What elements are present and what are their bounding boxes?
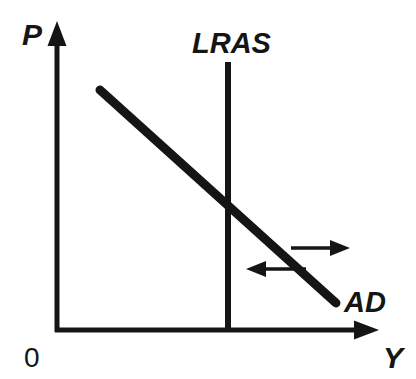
origin-label: 0 [24, 342, 40, 373]
ad-label: AD [343, 286, 386, 318]
horizontal-axis-arrowhead [354, 321, 379, 340]
diagram-canvas: P Y 0 LRAS AD [0, 0, 416, 379]
shift-right-arrow[interactable] [291, 240, 350, 256]
ad-curve[interactable] [100, 90, 336, 303]
vertical-axis-arrowhead [48, 21, 67, 46]
shift-right-arrow-head [330, 240, 350, 256]
lras-label: LRAS [192, 27, 272, 59]
ad-lras-diagram: P Y 0 LRAS AD [0, 0, 416, 379]
shift-left-arrow-head [246, 261, 266, 277]
curves-group [100, 62, 336, 331]
output-axis-label: Y [383, 341, 406, 374]
price-axis-label: P [22, 18, 43, 51]
